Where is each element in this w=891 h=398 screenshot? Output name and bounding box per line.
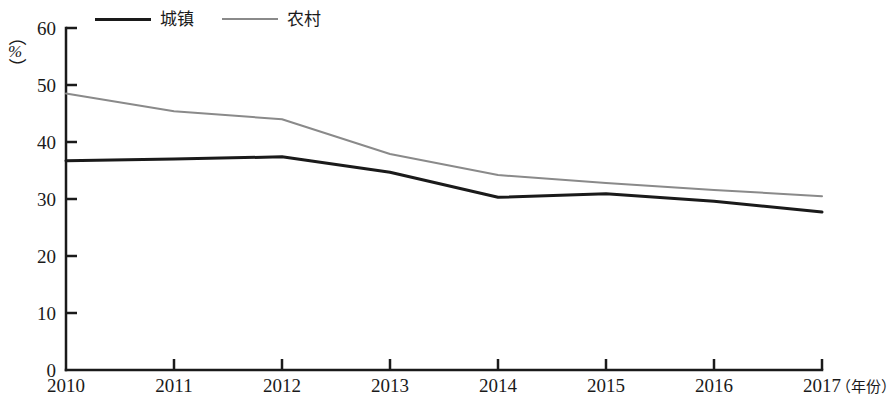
x-axis-tick-label: 2014 bbox=[479, 375, 518, 396]
y-axis-tick-label: 40 bbox=[37, 132, 56, 153]
series-line-rural bbox=[66, 94, 822, 197]
data-series-layer bbox=[66, 94, 822, 213]
y-axis-tick-label: 30 bbox=[37, 189, 56, 210]
y-axis-tick-label: 10 bbox=[37, 303, 56, 324]
x-axis-ticks bbox=[174, 359, 822, 370]
x-axis-tick-label: 2011 bbox=[155, 375, 192, 396]
y-axis-tick-labels: 0102030405060 bbox=[37, 18, 56, 381]
x-axis-tick-label: 2016 bbox=[695, 375, 733, 396]
x-axis-tick-label: 2015 bbox=[587, 375, 625, 396]
y-axis-tick-label: 60 bbox=[37, 18, 56, 39]
x-axis-tick-label: 2013 bbox=[371, 375, 409, 396]
x-axis-tick-label: 2012 bbox=[263, 375, 301, 396]
x-axis-tick-label: 2010 bbox=[47, 375, 85, 396]
x-axis-tick-labels: 20102011201220132014201520162017 bbox=[47, 375, 841, 396]
y-axis-tick-label: 50 bbox=[37, 75, 56, 96]
y-axis-tick-label: 20 bbox=[37, 246, 56, 267]
y-axis-ticks bbox=[66, 28, 77, 313]
x-axis-title: （年份） bbox=[836, 375, 891, 396]
